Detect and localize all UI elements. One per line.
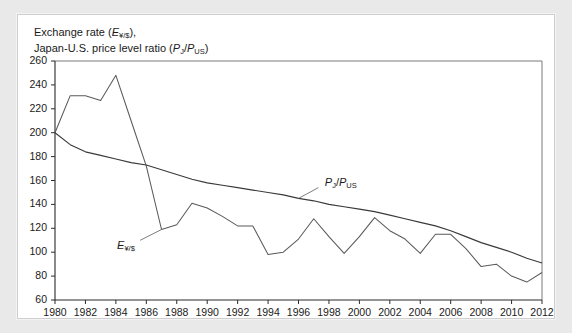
x-tick-label: 1984: [99, 306, 133, 318]
figure-panel: Exchange rate (E¥/$), Japan-U.S. price l…: [17, 14, 555, 319]
y-tick-label: 60: [21, 293, 47, 305]
y-tick-label: 180: [21, 150, 47, 162]
x-tick-label: 2010: [495, 306, 529, 318]
leader-line-price-ratio: [299, 188, 319, 199]
y-tick-label: 140: [21, 197, 47, 209]
plot-frame: [55, 61, 542, 300]
chart-svg: [18, 15, 556, 320]
y-tick-label: 220: [21, 102, 47, 114]
y-tick-label: 80: [21, 269, 47, 281]
x-tick-label: 1990: [190, 306, 224, 318]
x-tick-label: 1980: [38, 306, 72, 318]
plot-area: [18, 15, 556, 320]
x-tick-label: 1982: [68, 306, 102, 318]
x-tick-label: 2002: [373, 306, 407, 318]
y-tick-label: 240: [21, 78, 47, 90]
x-tick-label: 1994: [251, 306, 285, 318]
y-tick-label: 100: [21, 245, 47, 257]
plot-axes: [55, 61, 542, 300]
y-tick-label: 120: [21, 221, 47, 233]
x-tick-label: 2004: [403, 306, 437, 318]
x-tick-label: 1986: [129, 306, 163, 318]
x-tick-label: 1998: [312, 306, 346, 318]
x-tick-label: 2000: [342, 306, 376, 318]
x-tick-label: 1988: [160, 306, 194, 318]
x-tick-label: 2012: [525, 306, 559, 318]
y-tick-label: 160: [21, 174, 47, 186]
series-label-price-ratio: PJ/PUS: [325, 176, 357, 188]
y-tick-label: 260: [21, 54, 47, 66]
x-tick-label: 1996: [282, 306, 316, 318]
series-label-exchange-rate: E¥/$: [117, 239, 135, 251]
leader-line-exchange-rate: [140, 230, 161, 241]
x-tick-label: 2006: [434, 306, 468, 318]
x-tick-label: 1992: [221, 306, 255, 318]
y-tick-label: 200: [21, 126, 47, 138]
x-tick-label: 2008: [464, 306, 498, 318]
